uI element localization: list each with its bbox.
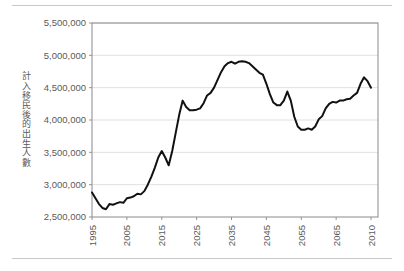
series-group bbox=[92, 61, 371, 209]
page-rule-bottom bbox=[12, 258, 392, 259]
series-line-0 bbox=[92, 61, 371, 209]
y-axis-title-group: 計入移民後的出生人數 bbox=[22, 70, 31, 167]
x-tick-label-1: 2005 bbox=[121, 225, 132, 246]
gridlines-group bbox=[89, 23, 378, 220]
y-tick-label-4: 4,500,000 bbox=[44, 82, 86, 93]
y-axis-title-char-5: 的 bbox=[22, 118, 31, 129]
x-tick-label-7: 2065 bbox=[331, 225, 342, 246]
y-tick-label-3: 4,000,000 bbox=[44, 114, 86, 125]
y-axis-title-char-0: 計 bbox=[22, 70, 31, 81]
y-tick-label-5: 5,000,000 bbox=[44, 50, 86, 61]
y-tick-label-0: 2,500,000 bbox=[44, 211, 86, 222]
chart-svg: 2,500,0003,000,0003,500,0004,000,0004,50… bbox=[0, 10, 404, 255]
x-tick-label-0: 1995 bbox=[87, 225, 98, 246]
x-tick-label-5: 2045 bbox=[261, 225, 272, 246]
x-tick-label-4: 2035 bbox=[226, 225, 237, 246]
y-axis-title-char-8: 人 bbox=[22, 148, 31, 158]
x-tick-label-6: 2055 bbox=[296, 225, 307, 246]
y-axis-title-char-4: 後 bbox=[22, 109, 31, 120]
y-axis-title-char-2: 移 bbox=[22, 90, 31, 101]
page-canvas: 2,500,0003,000,0003,500,0004,000,0004,50… bbox=[0, 0, 404, 271]
y-axis-title-char-9: 數 bbox=[22, 157, 31, 168]
x-tick-label-3: 2025 bbox=[191, 225, 202, 246]
y-axis-title-char-7: 生 bbox=[22, 138, 31, 149]
line-chart-figure: 2,500,0003,000,0003,500,0004,000,0004,50… bbox=[0, 10, 404, 255]
y-tick-label-1: 3,000,000 bbox=[44, 179, 86, 190]
page-rule-top bbox=[12, 5, 392, 6]
x-axis-tick-labels: 199520052015202520352045205520652010 bbox=[87, 225, 377, 246]
x-tick-label-8: 2010 bbox=[366, 225, 377, 246]
y-tick-label-6: 5,500,000 bbox=[44, 17, 86, 28]
y-axis-tick-labels: 2,500,0003,000,0003,500,0004,000,0004,50… bbox=[44, 17, 86, 222]
y-tick-label-2: 3,500,000 bbox=[44, 147, 86, 158]
y-axis-title-char-6: 出 bbox=[22, 128, 31, 139]
y-axis-title-char-1: 入 bbox=[22, 81, 31, 91]
x-tick-label-2: 2015 bbox=[156, 225, 167, 246]
y-axis-title-char-3: 民 bbox=[22, 100, 31, 110]
